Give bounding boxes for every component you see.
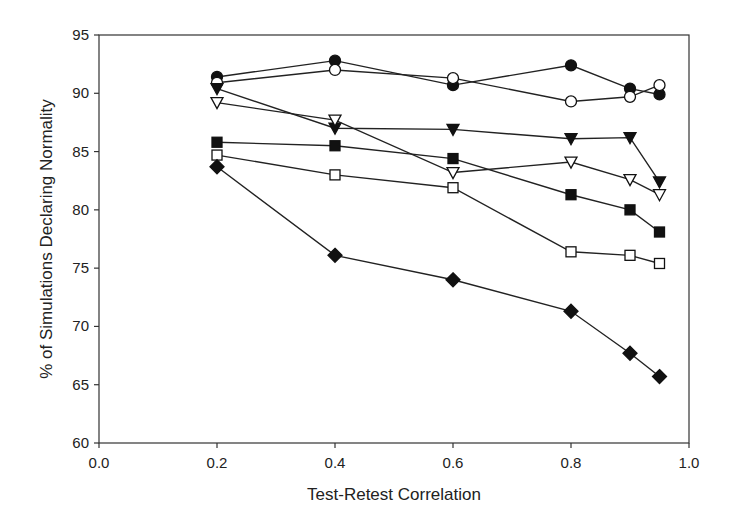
diamond-marker (623, 346, 637, 360)
plot-border (99, 35, 689, 443)
circle-marker (654, 80, 665, 91)
x-axis-title: Test-Retest Correlation (307, 485, 481, 504)
y-tick-label: 80 (72, 201, 89, 218)
square-marker (655, 227, 665, 237)
diamond-marker (328, 248, 342, 262)
series-filled-square (212, 137, 665, 237)
series-filled-diamond (210, 160, 667, 384)
square-marker (448, 154, 458, 164)
x-tick-label: 0.2 (207, 454, 228, 471)
y-tick-label: 75 (72, 259, 89, 276)
square-marker (330, 141, 340, 151)
triangle-marker (624, 175, 636, 186)
x-tick-label: 0.8 (561, 454, 582, 471)
square-marker (448, 183, 458, 193)
square-marker (212, 137, 222, 147)
series-open-circle (212, 64, 666, 106)
square-marker (330, 170, 340, 180)
square-marker (655, 258, 665, 268)
plot-area (99, 35, 689, 443)
circle-marker (448, 73, 459, 84)
y-axis: 6065707580859095 (72, 26, 99, 451)
x-tick-label: 0.0 (89, 454, 110, 471)
series-open-triangle (211, 98, 666, 201)
square-marker (625, 250, 635, 260)
diamond-marker (564, 304, 578, 318)
triangle-marker (211, 84, 223, 95)
series-line (217, 142, 660, 232)
series-line (217, 167, 660, 377)
square-marker (566, 190, 576, 200)
square-marker (625, 205, 635, 215)
triangle-marker (654, 190, 666, 201)
diamond-marker (653, 370, 667, 384)
circle-marker (566, 60, 577, 71)
y-tick-label: 85 (72, 143, 89, 160)
y-tick-label: 60 (72, 434, 89, 451)
line-chart: 0.00.20.40.60.81.0 6065707580859095 Test… (0, 0, 740, 522)
diamond-marker (210, 160, 224, 174)
circle-marker (566, 96, 577, 107)
square-marker (212, 150, 222, 160)
circle-marker (330, 64, 341, 75)
circle-marker (625, 91, 636, 102)
y-tick-label: 95 (72, 26, 89, 43)
x-tick-label: 0.4 (325, 454, 346, 471)
diamond-marker (446, 273, 460, 287)
triangle-marker (654, 177, 666, 188)
x-axis: 0.00.20.40.60.81.0 (89, 443, 700, 471)
series-line (217, 103, 660, 195)
y-tick-label: 70 (72, 317, 89, 334)
x-tick-label: 1.0 (679, 454, 700, 471)
square-marker (566, 247, 576, 257)
y-tick-label: 90 (72, 84, 89, 101)
series-open-square (212, 150, 665, 268)
y-tick-label: 65 (72, 376, 89, 393)
y-axis-title: % of Simulations Declaring Normality (37, 99, 56, 379)
series-group (210, 55, 667, 383)
series-line (217, 155, 660, 263)
x-tick-label: 0.6 (443, 454, 464, 471)
triangle-marker (447, 168, 459, 179)
